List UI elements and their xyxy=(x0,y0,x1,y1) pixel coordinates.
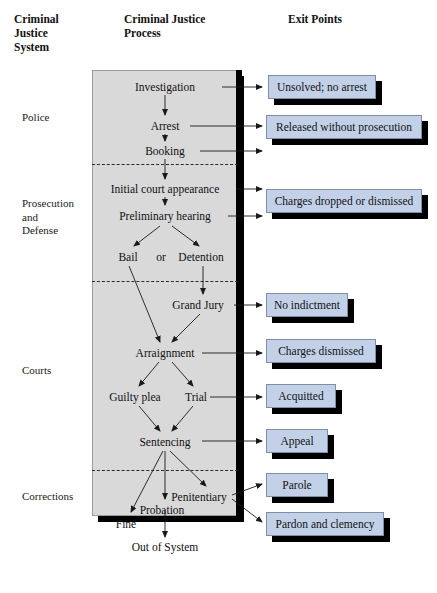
node-sentencing[interactable]: Sentencing xyxy=(139,436,190,449)
stage-label-corrections: Corrections xyxy=(22,490,73,504)
node-out-of-system: Out of System xyxy=(132,541,198,553)
stage-label-courts: Courts xyxy=(22,364,51,378)
divider-prosecution-courts xyxy=(92,281,238,282)
node-arraignment[interactable]: Arraignment xyxy=(136,347,195,360)
process-box-right-edge-bar xyxy=(236,70,242,522)
node-preliminary-hearing[interactable]: Preliminary hearing xyxy=(119,210,211,223)
node-probation[interactable]: Probation xyxy=(140,504,185,517)
criminal-justice-flowchart: Criminal Justice System Criminal Justice… xyxy=(0,0,437,593)
node-investigation[interactable]: Investigation xyxy=(135,81,195,94)
header-criminal-justice-process: Criminal Justice Process xyxy=(124,12,234,40)
exit-box-pardon-and-clemency[interactable]: Pardon and clemency xyxy=(266,512,384,536)
exit-box-appeal[interactable]: Appeal xyxy=(266,429,328,453)
node-grand-jury[interactable]: Grand Jury xyxy=(172,299,223,312)
header-exit-points: Exit Points xyxy=(288,12,408,26)
exit-box-unsolved[interactable]: Unsolved; no arrest xyxy=(268,75,376,99)
node-penitentiary[interactable]: Penitentiary xyxy=(171,491,227,504)
divider-police-prosecution xyxy=(92,164,238,165)
node-initial-court-appearance[interactable]: Initial court appearance xyxy=(111,183,220,196)
stage-label-prosecution: Prosecution and Defense xyxy=(22,197,74,238)
exit-box-charges-dismissed[interactable]: Charges dismissed xyxy=(266,339,376,363)
node-arrest[interactable]: Arrest xyxy=(151,120,180,133)
node-bail[interactable]: Bail xyxy=(118,251,137,264)
exit-box-charges-dropped[interactable]: Charges dropped or dismissed xyxy=(266,189,422,213)
process-box xyxy=(92,70,238,516)
divider-courts-corrections xyxy=(92,470,238,471)
node-booking[interactable]: Booking xyxy=(145,145,185,158)
exit-box-no-indictment[interactable]: No indictment xyxy=(266,293,348,317)
node-guilty-plea[interactable]: Guilty plea xyxy=(109,391,160,404)
node-bail-or-detention-conjunction: or xyxy=(156,251,166,264)
exit-box-acquitted[interactable]: Acquitted xyxy=(266,384,336,408)
node-detention[interactable]: Detention xyxy=(178,251,223,264)
node-trial[interactable]: Trial xyxy=(185,391,207,404)
stage-label-police: Police xyxy=(22,111,50,125)
exit-box-released[interactable]: Released without prosecution xyxy=(266,115,422,139)
node-fine[interactable]: Fine xyxy=(116,518,136,531)
header-criminal-justice-system: Criminal Justice System xyxy=(14,12,94,54)
exit-box-parole[interactable]: Parole xyxy=(266,473,328,497)
